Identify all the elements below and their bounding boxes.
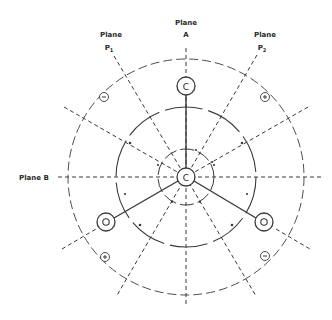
atom-center-label: C	[183, 173, 189, 183]
plane-b-label: Plane B	[19, 174, 49, 182]
plane-p1-label-subscript: 1	[110, 47, 114, 53]
plane-diag-lower-left	[62, 229, 96, 249]
plane-p2-label-line2: P2	[258, 44, 267, 53]
plane-p1-label-line2: P1	[105, 44, 114, 53]
atom-bottom-left	[97, 213, 115, 231]
diagram-canvas: C C Plane A Plane P1 Plane P2 Plane B	[0, 0, 332, 320]
sign-plus-upper-right	[261, 93, 270, 102]
bond-bottom-left	[114, 181, 178, 218]
sign-minus-lower-right	[261, 252, 270, 261]
atom-top: C	[177, 77, 195, 95]
plane-diag-upper-left	[64, 107, 186, 177]
plane-a-label-line2: A	[183, 31, 189, 39]
plane-diag-lower-right	[276, 229, 310, 249]
plane-diag-upper-right	[186, 107, 308, 177]
atom-top-label: C	[183, 82, 189, 92]
plane-p2-label-line1: Plane	[254, 31, 276, 39]
plane-p1-label-line1: Plane	[100, 31, 122, 39]
sign-minus-upper-left	[100, 93, 109, 102]
plane-p2-label-subscript: 2	[263, 47, 267, 53]
atom-center: C	[177, 168, 195, 186]
atom-bottom-right	[255, 213, 273, 231]
sign-plus-lower-left	[101, 253, 110, 262]
plane-a-label-line1: Plane	[175, 19, 197, 27]
